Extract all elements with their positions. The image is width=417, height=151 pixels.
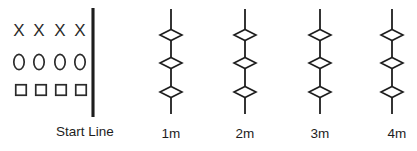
distance-label-4m: 4m — [388, 126, 407, 141]
o-row — [14, 54, 85, 69]
marker-diamond — [309, 30, 331, 41]
player-marker-oval — [14, 54, 24, 69]
square-row — [16, 85, 87, 96]
marker-diamond — [234, 30, 256, 41]
player-marker-x: X — [54, 21, 65, 40]
player-marker-x: X — [13, 21, 24, 40]
label-group: Start Line1m2m3m4m — [56, 124, 406, 141]
marker-diamond — [234, 87, 256, 98]
player-marker-x: X — [74, 21, 85, 40]
player-marker-oval — [34, 54, 44, 69]
distance-marker-3m — [309, 9, 331, 114]
player-marker-square — [16, 85, 27, 96]
player-marker-x: X — [33, 21, 44, 40]
marker-diamond — [381, 87, 403, 98]
marker-diamond — [160, 30, 182, 41]
x-row: XXXX — [13, 21, 85, 40]
player-marker-square — [56, 85, 67, 96]
marker-diamond — [234, 58, 256, 69]
distance-label-3m: 3m — [311, 126, 330, 141]
marker-diamond — [160, 87, 182, 98]
marker-diamond — [309, 58, 331, 69]
marker-diamond — [309, 87, 331, 98]
player-marker-square — [36, 85, 47, 96]
distance-marker-2m — [234, 9, 256, 114]
start-line-label: Start Line — [56, 124, 114, 139]
player-marker-oval — [55, 54, 65, 69]
marker-diamond — [381, 30, 403, 41]
marker-diamond — [381, 58, 403, 69]
player-marker-oval — [75, 54, 85, 69]
diagram-svg: XXXX Start Line1m2m3m4m — [0, 0, 417, 151]
distance-marker-group — [160, 9, 403, 114]
marker-diamond — [160, 58, 182, 69]
diagram-canvas: XXXX Start Line1m2m3m4m — [0, 0, 417, 151]
player-marker-square — [76, 85, 87, 96]
distance-marker-4m — [381, 9, 403, 114]
distance-label-2m: 2m — [236, 126, 255, 141]
player-marker-group: XXXX — [13, 21, 86, 95]
distance-label-1m: 1m — [162, 126, 181, 141]
distance-marker-1m — [160, 9, 182, 114]
